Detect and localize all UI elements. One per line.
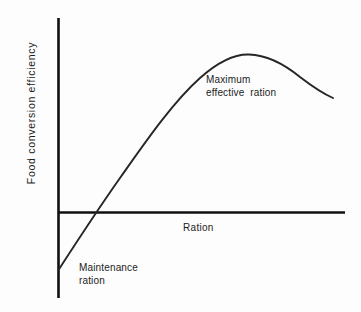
efficiency-curve — [59, 54, 334, 270]
x-axis-label: Ration — [183, 222, 214, 235]
annotation-max-line2: effective ration — [206, 87, 276, 98]
annotation-maint-line1: Maintenance — [79, 262, 138, 273]
chart-plot-area — [0, 0, 361, 312]
annotation-max-line1: Maximum — [206, 74, 250, 85]
annotation-maintenance-ration: Maintenanceration — [79, 262, 138, 287]
annotation-maint-line2: ration — [79, 275, 105, 286]
chart-figure: Food conversion efficiency Ration Maximu… — [0, 0, 361, 312]
y-axis-label: Food conversion efficiency — [25, 23, 38, 203]
annotation-maximum-effective-ration: Maximumeffective ration — [206, 74, 276, 99]
